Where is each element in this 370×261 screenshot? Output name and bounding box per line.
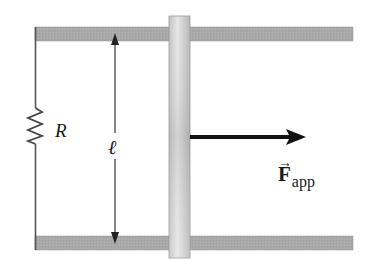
resistor-circuit xyxy=(28,27,42,250)
sliding-bar xyxy=(169,16,190,258)
bottom-rail xyxy=(35,236,353,250)
top-rail xyxy=(35,27,353,41)
vector-arrow-icon: → xyxy=(278,156,292,170)
length-label: ℓ xyxy=(108,135,116,159)
applied-force-label: →F app xyxy=(278,164,315,185)
force-subscript: app xyxy=(292,173,315,190)
force-arrow xyxy=(190,129,306,145)
resistor-label: R xyxy=(55,121,67,140)
force-symbol: →F xyxy=(278,164,291,185)
resistor-zigzag-icon xyxy=(28,108,42,144)
